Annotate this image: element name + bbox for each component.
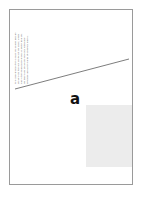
gray-image-placeholder [86, 105, 133, 167]
diagonal-trend-line [15, 59, 129, 89]
panel-label-a: a [70, 92, 80, 107]
document-page-sheet: The coordinates of the dots in the scatt… [9, 9, 133, 185]
document-thumbnail-root: The coordinates of the dots in the scatt… [0, 0, 144, 197]
